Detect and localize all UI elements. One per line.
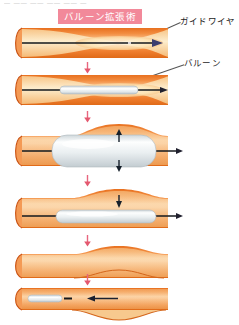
panel-deflated-balloon-positioned bbox=[0, 72, 239, 108]
guidewire-label: ガイドワイヤ bbox=[180, 14, 235, 26]
panel-balloon-withdrawn bbox=[0, 286, 239, 322]
balloon-angioplasty-illustration: — —— —— —— —— — バルーン拡張術 ガイドワイヤ バルーン bbox=[0, 0, 239, 325]
step-arrow-1-to-2 bbox=[83, 60, 92, 72]
step-arrow-5-to-6 bbox=[83, 272, 92, 284]
title-badge: バルーン拡張術 bbox=[58, 9, 142, 24]
panel-stenosed-vessel-with-guidewire bbox=[0, 26, 239, 60]
panel-vessel-widened bbox=[0, 244, 239, 284]
panel-balloon-deflating bbox=[0, 186, 239, 232]
step-arrow-3-to-4 bbox=[83, 173, 92, 185]
step-arrow-2-to-3 bbox=[83, 109, 92, 121]
cut-off-header-text: — —— —— —— —— — bbox=[4, 0, 154, 6]
panel-balloon-inflated bbox=[0, 122, 239, 172]
